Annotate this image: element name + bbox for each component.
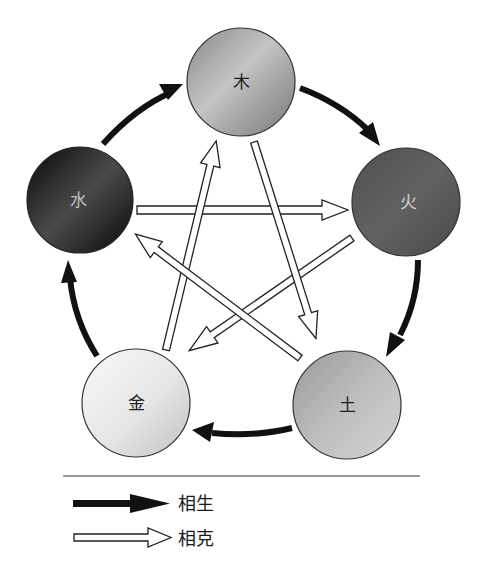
element-water: 水 — [27, 147, 133, 253]
legend-item-overcoming: 相克 — [74, 528, 214, 549]
element-earth: 土 — [293, 351, 401, 459]
arrow-fire-to-earth — [386, 260, 418, 357]
five-elements-diagram: 木 火 土 金 水 相生 相克 — [0, 0, 477, 573]
element-fire: 火 — [352, 148, 460, 256]
arrow-wood-to-fire — [300, 88, 380, 146]
legend-label-overcoming: 相克 — [178, 528, 214, 549]
arrow-metal-to-wood — [156, 139, 226, 353]
wood-label: 木 — [233, 72, 250, 92]
arrow-earth-to-metal — [192, 422, 292, 442]
hollow-arrow-icon — [74, 528, 171, 547]
arrow-water-to-wood — [103, 84, 183, 144]
water-label: 水 — [70, 190, 87, 210]
overcoming-cycle — [129, 139, 357, 366]
fire-label: 火 — [400, 192, 417, 212]
arrow-water-to-fire — [137, 200, 348, 220]
element-metal: 金 — [82, 349, 190, 457]
legend-item-generating: 相生 — [73, 493, 214, 514]
legend-label-generating: 相生 — [178, 493, 214, 514]
arrow-wood-to-earth — [244, 139, 325, 341]
solid-arrow-icon — [73, 494, 170, 513]
arrow-metal-to-water — [61, 260, 97, 356]
metal-label: 金 — [128, 393, 145, 413]
legend: 相生 相克 — [73, 493, 214, 549]
element-wood: 木 — [187, 28, 295, 136]
arrow-earth-to-water — [129, 226, 306, 366]
earth-label: 土 — [339, 395, 356, 415]
